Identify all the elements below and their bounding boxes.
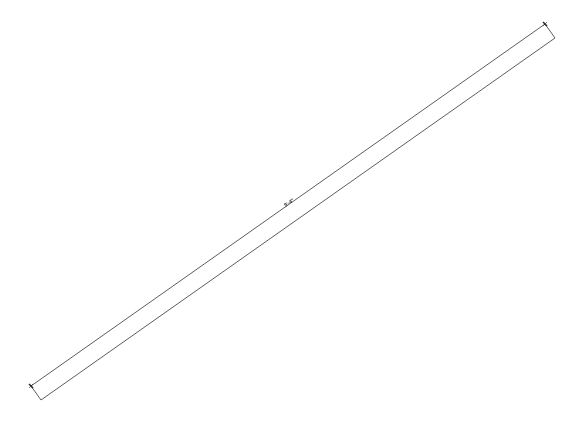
endpoint-marker-right-icon[interactable] — [543, 22, 547, 26]
drawing-canvas: 9'-4" — [0, 0, 582, 425]
wall-edge-line[interactable] — [41, 38, 555, 400]
dimension-drawing: 9'-4" — [0, 0, 582, 425]
endpoint-marker-left-icon[interactable] — [29, 384, 33, 388]
dimension-label[interactable]: 9'-4" — [283, 196, 296, 207]
